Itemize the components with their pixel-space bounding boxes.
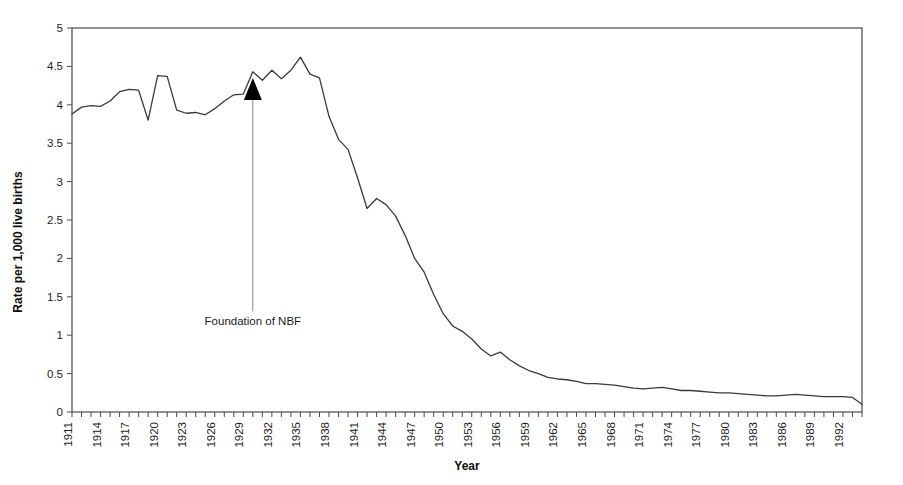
x-tick-label: 1977 [690,422,702,448]
data-series-group [72,57,862,404]
x-tick-label: 1923 [176,422,188,448]
y-tick-label: 2.5 [47,214,63,226]
x-tick-label: 1935 [290,422,302,448]
annotation-group: Foundation of NBF [205,78,302,327]
x-tick-label: 1950 [433,422,445,448]
x-tick-label: 1959 [519,422,531,448]
x-tick-label: 1941 [348,422,360,448]
plot-frame [72,28,862,412]
x-tick-label: 1956 [490,422,502,448]
x-tick-label: 1962 [547,422,559,448]
x-tick-label: 1911 [62,422,74,447]
plot-area-border [72,28,862,412]
y-tick-label: 3 [57,176,63,188]
x-tick-label: 1968 [605,422,617,448]
x-tick-label: 1971 [633,422,645,448]
y-tick-label: 0.5 [47,368,63,380]
x-tick-label: 1986 [776,422,788,448]
y-tick-label: 5 [57,22,63,34]
x-tick-label: 1992 [833,422,845,448]
y-tick-label: 1.5 [47,291,63,303]
x-tick-label: 1965 [576,422,588,448]
y-tick-label: 0 [57,406,63,418]
x-tick-label: 1980 [719,422,731,448]
chart-figure: 00.511.522.533.544.55 191119141917192019… [0,0,903,485]
y-tick-label: 1 [57,329,63,341]
x-tick-label: 1929 [233,422,245,448]
y-axis-tick-labels: 00.511.522.533.544.55 [47,22,64,418]
x-tick-label: 1989 [804,422,816,448]
y-tick-label: 4 [57,99,64,111]
x-tick-label: 1932 [262,422,274,448]
x-tick-label: 1938 [319,422,331,448]
data-line [72,57,862,404]
y-axis-ticks [67,28,72,412]
x-tick-label: 1953 [462,422,474,448]
y-tick-label: 2 [57,252,63,264]
annotation-arrow-icon [244,78,262,100]
x-axis-tick-labels: 1911191419171920192319261929193219351938… [62,421,845,447]
y-tick-label: 3.5 [47,137,63,149]
x-tick-label: 1920 [148,422,160,448]
x-tick-label: 1974 [662,421,674,447]
y-axis-title: Rate per 1,000 live births [11,171,25,313]
x-tick-label: 1947 [405,422,417,448]
x-tick-label: 1983 [747,422,759,448]
x-tick-label: 1926 [205,422,217,448]
annotation-label: Foundation of NBF [205,315,302,327]
x-axis-ticks [72,412,862,417]
x-axis-title: Year [454,459,480,473]
x-tick-label: 1944 [376,421,388,447]
line-chart: 00.511.522.533.544.55 191119141917192019… [0,0,903,485]
y-tick-label: 4.5 [47,60,63,72]
x-tick-label: 1917 [119,422,131,448]
x-tick-label: 1914 [91,421,103,447]
